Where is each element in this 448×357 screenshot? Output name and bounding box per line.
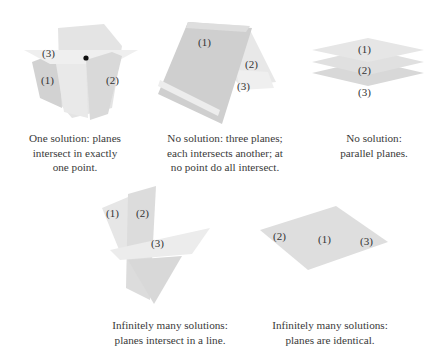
plane-label: (2) [136, 207, 149, 219]
plane-label: (1) [41, 74, 54, 86]
caption: Infinitely many solutions: planes are id… [240, 318, 420, 347]
plane-label: (1) [106, 207, 119, 219]
figure-parallel-planes: (1) (2) (3) No solution: parallel planes… [300, 0, 448, 180]
figure-no-solution-pairwise: (1) (2) (3) No solution: three planes; e… [140, 0, 310, 180]
figure-one-solution: (3) (1) (2) One solution: planes interse… [0, 0, 150, 180]
caption: No solution: parallel planes. [300, 131, 448, 160]
plane-label: (3) [151, 237, 164, 249]
line-planes-illustration [80, 180, 260, 310]
plane-label: (2) [106, 74, 119, 86]
plane-label: (3) [358, 86, 371, 98]
plane-label: (1) [198, 36, 211, 48]
tent-planes-illustration [140, 0, 310, 130]
plane-label: (2) [245, 58, 258, 70]
figure-identical-planes: (2) (1) (3) Infinitely many solutions: p… [240, 180, 420, 357]
plane-label: (3) [42, 47, 55, 59]
intersection-point [83, 55, 88, 60]
caption: No solution: three planes; each intersec… [140, 131, 310, 175]
plane-label: (1) [318, 233, 331, 245]
caption: One solution: planes intersect in exactl… [0, 131, 150, 175]
plane-label: (2) [273, 230, 286, 242]
one-point-planes-illustration [0, 0, 150, 130]
plane-label: (1) [358, 43, 371, 55]
identical-planes-illustration [240, 180, 420, 310]
parallel-planes-illustration [300, 0, 448, 130]
plane-label: (2) [358, 64, 371, 76]
plane-label: (3) [360, 235, 373, 247]
figure-line-intersection: (1) (2) (3) Infinitely many solutions: p… [80, 180, 260, 357]
plane-label: (3) [237, 80, 250, 92]
caption: Infinitely many solutions: planes inters… [80, 318, 260, 347]
